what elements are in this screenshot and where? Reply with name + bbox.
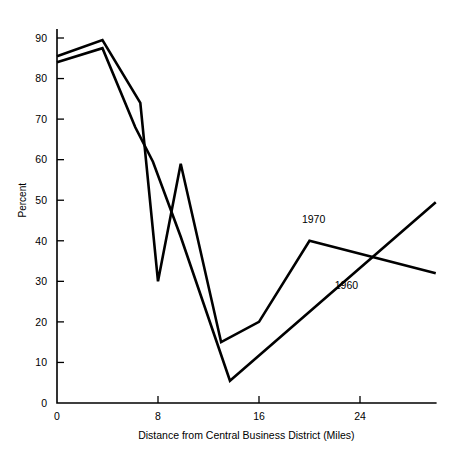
series-line-1960 bbox=[57, 48, 436, 381]
x-tick-label: 0 bbox=[54, 410, 60, 422]
y-tick-label: 80 bbox=[35, 72, 47, 84]
y-tick-label: 0 bbox=[41, 397, 47, 409]
y-tick-label: 50 bbox=[35, 194, 47, 206]
y-axis-title: Percent bbox=[17, 183, 28, 218]
x-tick-label: 8 bbox=[155, 410, 161, 422]
x-axis-title: Distance from Central Business District … bbox=[138, 429, 354, 441]
y-tick-label: 30 bbox=[35, 275, 47, 287]
series-line-1970 bbox=[57, 40, 436, 342]
line-chart: 0102030405060708090081624 19701960 Dista… bbox=[0, 0, 460, 455]
y-tick-label: 20 bbox=[35, 316, 47, 328]
x-tick-label: 24 bbox=[354, 410, 366, 422]
x-tick-label: 16 bbox=[253, 410, 265, 422]
axis-tick-labels: 0102030405060708090081624 bbox=[35, 32, 366, 422]
series-label-1960: 1960 bbox=[335, 279, 359, 291]
y-tick-label: 40 bbox=[35, 235, 47, 247]
y-tick-label: 70 bbox=[35, 113, 47, 125]
y-tick-label: 10 bbox=[35, 356, 47, 368]
series-label-1970: 1970 bbox=[302, 213, 326, 225]
chart-axes bbox=[57, 30, 436, 403]
chart-container: 0102030405060708090081624 19701960 Dista… bbox=[0, 0, 460, 455]
y-tick-label: 90 bbox=[35, 32, 47, 44]
data-series bbox=[57, 40, 436, 381]
y-tick-label: 60 bbox=[35, 153, 47, 165]
axis-spine bbox=[57, 30, 436, 403]
